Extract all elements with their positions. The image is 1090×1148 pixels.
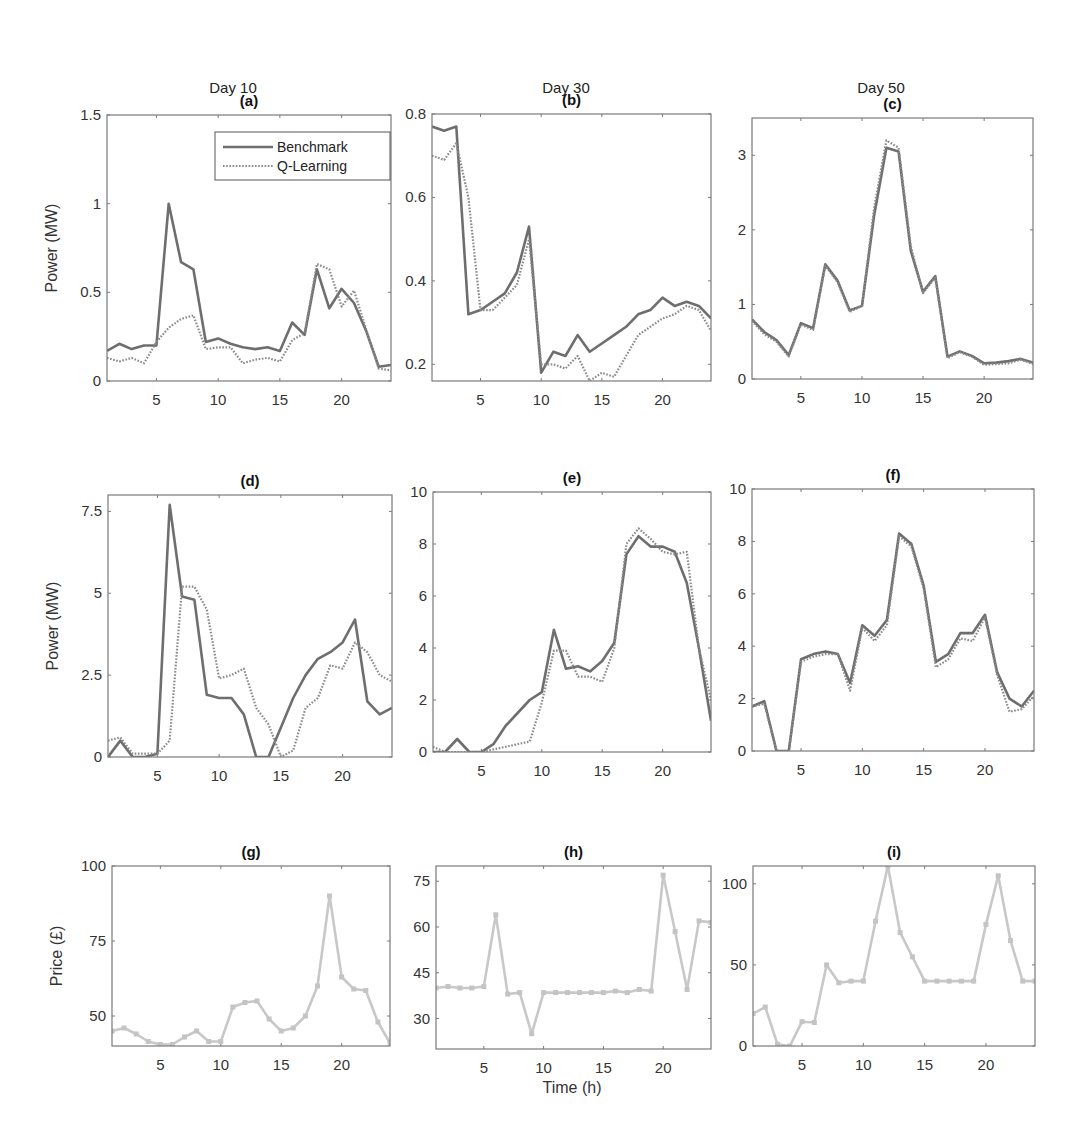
x-tick-label: 5 — [477, 762, 485, 779]
series-line-benchmark — [107, 204, 391, 367]
price-marker — [279, 1029, 284, 1034]
price-marker — [947, 979, 952, 984]
subplot-title: (f) — [886, 466, 901, 483]
x-tick-label: 10 — [211, 767, 228, 784]
price-marker — [481, 984, 486, 989]
axes-frame — [433, 492, 711, 752]
subplot-title: (b) — [562, 91, 581, 108]
y-tick-label: 0.2 — [405, 355, 426, 372]
price-marker — [242, 1000, 247, 1005]
y-tick-label: 0 — [738, 370, 746, 387]
x-tick-label: 10 — [854, 761, 871, 778]
y-tick-label: 30 — [413, 1010, 430, 1027]
price-marker — [182, 1035, 187, 1040]
x-tick-label: 20 — [333, 1056, 350, 1073]
y-tick-label: 5 — [94, 584, 102, 601]
x-tick-label: 10 — [535, 1059, 552, 1076]
subplot-panels: (a)510152000.511.5Power (MW)BenchmarkQ-L… — [43, 91, 1038, 1076]
price-marker — [505, 992, 510, 997]
x-tick-label: 10 — [533, 762, 550, 779]
price-marker — [493, 912, 498, 917]
price-marker — [637, 987, 642, 992]
price-marker — [230, 1005, 235, 1010]
x-tick-label: 20 — [654, 762, 671, 779]
y-tick-label: 75 — [413, 872, 430, 889]
y-tick-label: 45 — [413, 964, 430, 981]
column-titles: Day 10 Day 30 Day 50 — [209, 79, 905, 96]
y-tick-label: 0.8 — [405, 105, 426, 122]
price-marker — [339, 975, 344, 980]
y-tick-label: 0 — [94, 748, 102, 765]
series-line-benchmark — [752, 148, 1033, 363]
y-tick-label: 4 — [419, 639, 427, 656]
price-marker — [363, 988, 368, 993]
y-tick-label: 1 — [738, 295, 746, 312]
price-marker — [327, 894, 332, 899]
y-tick-label: 7.5 — [81, 502, 102, 519]
price-marker — [861, 979, 866, 984]
y-axis-label: Power (MW) — [44, 582, 61, 671]
y-tick-label: 2 — [738, 221, 746, 238]
axes-frame — [436, 866, 711, 1049]
x-tick-label: 15 — [272, 391, 289, 408]
price-marker — [697, 918, 702, 923]
price-marker — [824, 962, 829, 967]
series-line-price — [753, 866, 1035, 1046]
y-tick-label: 8 — [419, 535, 427, 552]
x-tick-label: 5 — [153, 767, 161, 784]
price-marker — [685, 987, 690, 992]
y-tick-label: 50 — [730, 956, 747, 973]
subplot-d: (d)510152002.557.5Power (MW) — [44, 472, 392, 784]
subplot-g: (g)51015205075100Price (£) — [48, 843, 393, 1073]
axes-frame — [108, 495, 392, 757]
price-marker — [529, 1031, 534, 1036]
price-marker — [873, 919, 878, 924]
x-tick-label: 5 — [156, 1056, 164, 1073]
series-line-price — [436, 875, 711, 1034]
x-tick-label: 10 — [854, 389, 871, 406]
subplot-b: (b)51015200.20.40.60.8 — [405, 91, 711, 408]
price-marker — [812, 1020, 817, 1025]
y-tick-label: 50 — [89, 1007, 106, 1024]
x-tick-label: 10 — [855, 1056, 872, 1073]
axes-frame — [432, 114, 711, 381]
y-tick-label: 6 — [419, 587, 427, 604]
price-marker — [959, 979, 964, 984]
y-tick-label: 0.6 — [405, 188, 426, 205]
y-tick-label: 10 — [729, 480, 746, 497]
price-marker — [922, 979, 927, 984]
price-marker — [469, 986, 474, 991]
y-tick-label: 0 — [93, 372, 101, 389]
y-tick-label: 2 — [419, 691, 427, 708]
y-tick-label: 4 — [738, 637, 746, 654]
x-axis-label: Time (h) — [543, 1079, 602, 1096]
price-marker — [375, 1020, 380, 1025]
series-line-price — [112, 896, 390, 1045]
y-tick-label: 0.5 — [80, 283, 101, 300]
price-marker — [553, 990, 558, 995]
x-tick-label: 10 — [210, 391, 227, 408]
y-tick-label: 60 — [413, 918, 430, 935]
x-tick-label: 5 — [797, 389, 805, 406]
y-tick-label: 75 — [89, 932, 106, 949]
price-marker — [1020, 979, 1025, 984]
x-tick-label: 15 — [595, 1059, 612, 1076]
price-marker — [315, 984, 320, 989]
x-tick-label: 15 — [915, 761, 932, 778]
x-tick-label: 15 — [593, 391, 610, 408]
price-marker — [613, 989, 618, 994]
price-marker — [673, 929, 678, 934]
price-marker — [996, 873, 1001, 878]
price-marker — [910, 954, 915, 959]
axes-frame — [112, 866, 390, 1046]
x-tick-label: 20 — [655, 1059, 672, 1076]
y-axis-label: Price (£) — [48, 926, 65, 986]
y-tick-label: 3 — [738, 146, 746, 163]
subplot-i: (i)5101520050100 — [722, 843, 1038, 1073]
series-line-q-learning — [752, 140, 1033, 364]
x-tick-label: 15 — [273, 767, 290, 784]
price-marker — [625, 990, 630, 995]
y-tick-label: 100 — [81, 857, 106, 874]
price-marker — [206, 1039, 211, 1044]
subplot-f: (f)51015200246810 — [729, 466, 1034, 778]
